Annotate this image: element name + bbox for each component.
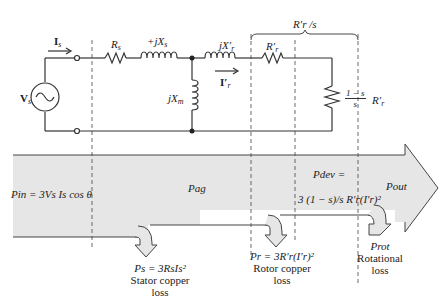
induction-motor-power-flow-diagram: Vs Is Rs +jXs jXm jX′r I′r R′r R′r /s 1 …: [0, 0, 440, 302]
load-fraction: 1 − s s: [345, 88, 366, 109]
load-resistor: [325, 86, 339, 108]
stator-loss-arrow: [135, 226, 157, 257]
rotor-loss-caption: Pr = 3R′r(I′r)² Rotor copper loss: [232, 250, 332, 286]
stator-loss-caption: Ps = 3RsIs² Stator copper loss: [110, 262, 210, 298]
terminal-top: [75, 56, 80, 61]
developed-power-label-1: Pdev =: [313, 168, 345, 180]
load-resistance-label: R′r: [372, 94, 384, 110]
stator-resistor: [105, 53, 126, 63]
stator-inductor: [141, 52, 177, 58]
source-voltage-label: Vs: [20, 92, 31, 108]
rotor-loss-arrow: [265, 215, 287, 247]
terminal-bottom: [75, 129, 80, 134]
stator-current-label: Is: [54, 35, 61, 51]
slip-bracket: [251, 30, 358, 40]
magnetizing-inductor: [192, 80, 198, 110]
rotor-current-label: I′r: [220, 76, 231, 92]
developed-power-label-2: 3 (1 − s)/s R′r(I′r)²: [298, 193, 381, 205]
stator-resistance-label: Rs: [111, 38, 121, 54]
magnetizing-reactance-label: jXm: [168, 92, 184, 108]
rotor-resistance-label: R′r: [266, 40, 278, 56]
output-power-label: Pout: [386, 180, 407, 192]
airgap-power-label: Pag: [188, 182, 206, 194]
stator-reactance-label: +jXs: [147, 35, 167, 51]
slip-bracket-label: R′r /s: [293, 18, 317, 30]
input-power-label: Pin = 3Vs Is cos θ: [11, 188, 92, 200]
rotor-reactance-label: jX′r: [219, 39, 234, 55]
rotational-loss-caption: Prot Rotational loss: [345, 240, 415, 276]
equivalent-circuit: [31, 30, 358, 134]
